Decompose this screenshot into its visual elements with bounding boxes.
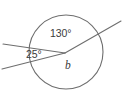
- ray-lower-left: [2, 53, 65, 69]
- ray-upper-left: [3, 44, 65, 53]
- ray-upper-right: [65, 21, 121, 53]
- figure-canvas: [0, 0, 124, 99]
- geometry-figure: 130° 25° b: [0, 0, 124, 99]
